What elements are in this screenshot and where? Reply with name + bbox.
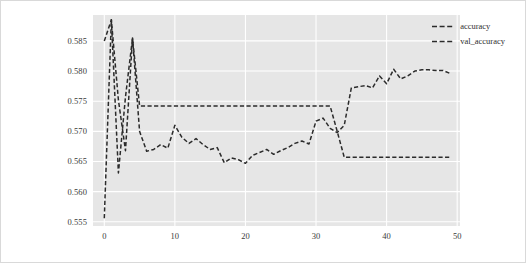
y-tick-label: 0.565 [67, 156, 87, 166]
series-line-val-accuracy [104, 20, 450, 157]
x-tick-label: 10 [171, 231, 180, 241]
y-tick-label: 0.580 [67, 66, 87, 76]
chart-legend: accuracy val_accuracy [427, 18, 511, 51]
y-tick-label: 0.585 [67, 36, 87, 46]
x-tick-label: 20 [241, 231, 250, 241]
plot-area [93, 15, 460, 226]
legend-label-val-accuracy: val_accuracy [460, 37, 505, 46]
x-tick-label: 30 [312, 231, 321, 241]
legend-item-val-accuracy: val_accuracy [432, 36, 505, 47]
legend-swatch-val-accuracy [432, 37, 454, 46]
y-tick-label: 0.570 [67, 126, 87, 136]
y-tick-label: 0.555 [67, 217, 87, 227]
legend-label-accuracy: accuracy [460, 22, 490, 31]
series-line-accuracy [104, 20, 450, 218]
y-tick-label: 0.575 [67, 96, 87, 106]
chart-figure: 0.5850.5800.5750.5700.5650.5600.555 0102… [0, 0, 526, 263]
legend-item-accuracy: accuracy [432, 21, 505, 32]
x-axis-tick-labels: 01020304050 [93, 231, 460, 245]
data-series-lines [93, 15, 460, 226]
y-tick-label: 0.560 [67, 187, 87, 197]
x-tick-label: 0 [102, 231, 106, 241]
y-axis-tick-labels: 0.5850.5800.5750.5700.5650.5600.555 [1, 15, 87, 226]
x-tick-label: 40 [382, 231, 391, 241]
x-tick-label: 50 [453, 231, 462, 241]
legend-swatch-accuracy [432, 22, 454, 31]
